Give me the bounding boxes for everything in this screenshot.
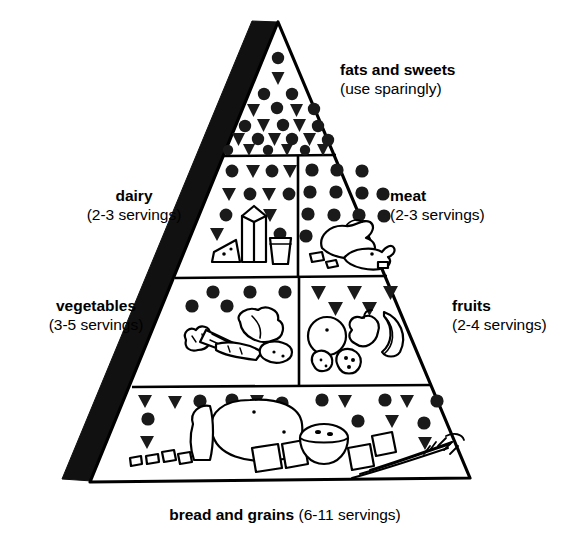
rice-bowl-icon bbox=[300, 424, 348, 464]
label-fats-and-sweets: fats and sweets (use sparingly) bbox=[340, 60, 455, 98]
label-fruits-servings: (2-4 servings) bbox=[452, 315, 547, 334]
apple-icon bbox=[349, 316, 378, 346]
food-pyramid-diagram: fats and sweets (use sparingly) dairy (2… bbox=[0, 0, 570, 541]
label-bread-servings: (6-11 servings) bbox=[299, 506, 401, 523]
label-meat-title: meat bbox=[390, 186, 485, 205]
meat-cut-icon bbox=[310, 252, 324, 262]
label-bread-and-grains: bread and grains (6-11 servings) bbox=[0, 505, 570, 524]
raspberry-icon bbox=[336, 349, 360, 374]
label-fats-servings: (use sparingly) bbox=[340, 79, 455, 98]
label-dairy: dairy (2-3 servings) bbox=[48, 186, 220, 224]
label-meat-servings: (2-3 servings) bbox=[390, 205, 485, 224]
label-dairy-title: dairy bbox=[48, 186, 220, 205]
label-fruits-title: fruits bbox=[452, 296, 547, 315]
pasta-square-icon bbox=[252, 444, 282, 472]
label-vegetables-title: vegetables bbox=[10, 296, 182, 315]
potato-icon bbox=[260, 342, 292, 363]
drinking-glass-icon bbox=[270, 238, 291, 264]
label-fats-title: fats and sweets bbox=[340, 60, 455, 79]
label-dairy-servings: (2-3 servings) bbox=[48, 205, 220, 224]
label-bread-title: bread and grains bbox=[169, 506, 294, 523]
pyramid-graphic bbox=[0, 0, 570, 541]
label-vegetables-servings: (3-5 servings) bbox=[10, 315, 182, 334]
label-fruits: fruits (2-4 servings) bbox=[452, 296, 547, 334]
orange-icon bbox=[308, 317, 346, 355]
divider-fats-dairy bbox=[222, 155, 336, 156]
bread-slice-icon bbox=[191, 406, 213, 460]
label-vegetables: vegetables (3-5 servings) bbox=[10, 296, 182, 334]
label-meat: meat (2-3 servings) bbox=[390, 186, 485, 224]
